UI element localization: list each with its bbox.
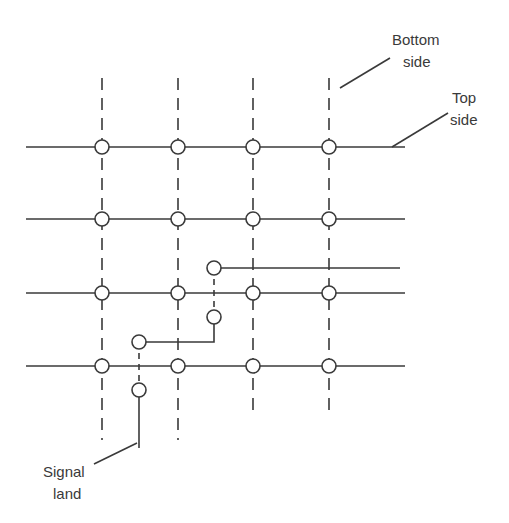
pad [95, 140, 109, 154]
top-side-label-line2: side [450, 111, 478, 128]
signal-land-leader [94, 443, 137, 464]
signal-pad-4 [132, 383, 146, 397]
pad [322, 286, 336, 300]
signal-land-label-line2: land [53, 485, 81, 502]
grid-pads [95, 140, 336, 373]
top-side-leader [392, 113, 448, 147]
pcb-grid-diagram: Bottom side Top side Signal land [0, 0, 509, 523]
bottom-side-leader [340, 58, 390, 88]
pad [246, 212, 260, 226]
signal-jog-trace [139, 317, 214, 342]
signal-pad-3 [132, 335, 146, 349]
pad [95, 286, 109, 300]
signal-land-label-line1: Signal [43, 463, 85, 480]
signal-pad-2 [207, 310, 221, 324]
pad [246, 286, 260, 300]
pad [171, 212, 185, 226]
pad [171, 140, 185, 154]
signal-pad-1 [207, 261, 221, 275]
pad [322, 212, 336, 226]
top-side-conductors [26, 147, 405, 366]
pad [322, 359, 336, 373]
pad [95, 359, 109, 373]
pad [246, 140, 260, 154]
pad [322, 140, 336, 154]
pad [246, 359, 260, 373]
pad [171, 286, 185, 300]
pad [171, 359, 185, 373]
pad [95, 212, 109, 226]
signal-pads [132, 261, 221, 397]
top-side-label-line1: Top [452, 89, 476, 106]
bottom-side-label-line2: side [403, 53, 431, 70]
bottom-side-label-line1: Bottom [392, 31, 440, 48]
